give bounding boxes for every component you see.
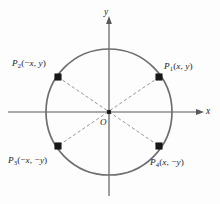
point-marker-p4: [156, 143, 162, 149]
y-axis-label: y: [104, 8, 108, 17]
p4-letter: P: [150, 157, 156, 167]
point-label-p1: P1(x, y): [164, 62, 193, 71]
point-label-p3: P3(−x, −y): [8, 156, 47, 165]
figure-canvas: [0, 0, 220, 204]
p1-letter: P: [164, 61, 170, 71]
x-axis-arrow-icon: [196, 109, 204, 115]
point-marker-p3: [55, 143, 61, 149]
p2-letter: P: [12, 58, 18, 68]
circle-symmetry-figure: P2(−x, y) P1(x, y) P3(−x, −y) P4(x, −y) …: [0, 0, 220, 204]
p4-subscript: 4: [156, 161, 159, 168]
origin-marker: [107, 110, 111, 114]
p4-close-paren: ): [181, 157, 184, 167]
point-label-p4: P4(x, −y): [150, 158, 184, 167]
p1-close-paren: ): [189, 61, 192, 71]
p2-close-paren: ): [43, 58, 46, 68]
p3-close-paren: ): [44, 155, 47, 165]
p3-letter: P: [8, 155, 14, 165]
p2-subscript: 2: [18, 62, 21, 69]
p3-subscript: 3: [14, 159, 17, 166]
x-axis-label: x: [206, 107, 210, 116]
point-marker-p2: [55, 74, 61, 80]
p1-subscript: 1: [170, 65, 173, 72]
point-marker-p1: [156, 74, 162, 80]
point-label-p2: P2(−x, y): [12, 59, 46, 68]
origin-label: O: [100, 118, 107, 127]
